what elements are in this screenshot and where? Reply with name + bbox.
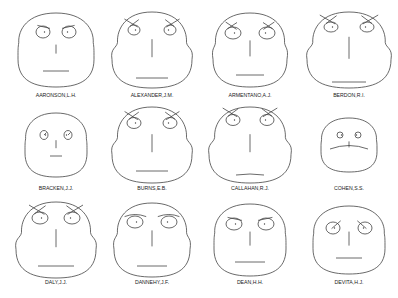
pupil-icon [365, 26, 366, 27]
pupil-icon [234, 119, 235, 120]
pupil-icon [332, 26, 333, 27]
pupil-icon [235, 223, 236, 224]
pupil-icon [135, 122, 136, 123]
pupil-icon [234, 32, 235, 33]
face: ARMENTANO,A.J. [212, 13, 287, 98]
face-label: DANNEHY,J.F. [135, 279, 169, 285]
pupil-icon [341, 134, 342, 135]
face-label: DEAN,H.H. [237, 279, 263, 285]
pupil-icon [167, 221, 168, 222]
face-label: BRACKEN,J.J. [39, 185, 74, 191]
face-label: ALEXANDER,J.M. [131, 92, 174, 98]
pupil-icon [265, 32, 266, 33]
pupil-icon [264, 223, 265, 224]
face: DALY,J.J. [16, 202, 97, 285]
eyebrow-icon [263, 23, 273, 29]
pupil-icon [66, 134, 67, 135]
face: DEAN,H.H. [214, 204, 286, 285]
eye-icon [358, 222, 372, 234]
pupil-icon [136, 221, 137, 222]
eyebrow-icon [263, 22, 274, 29]
face: BRACKEN,J.J. [25, 113, 87, 191]
pupil-icon [70, 217, 71, 218]
face-label: AARONSON,L.H. [36, 92, 77, 98]
eye-icon [127, 216, 143, 228]
pupil-icon [41, 217, 42, 218]
face-label: BERDON,R.I. [333, 92, 365, 98]
eyebrow-icon [227, 23, 237, 29]
pupil-icon [363, 227, 364, 228]
face: BURNS,E.B. [112, 107, 193, 191]
mouth-icon [236, 174, 264, 175]
face: BERDON,R.I. [307, 12, 392, 98]
eye-icon [161, 216, 177, 228]
face-label: DALY,J.J. [45, 279, 67, 285]
pupil-icon [135, 29, 136, 30]
eyebrow-icon [226, 22, 237, 29]
face: COHEN,S.S. [321, 118, 377, 191]
face: AARONSON,L.H. [18, 13, 94, 98]
pupil-icon [356, 134, 357, 135]
face-label: CALLAHAN,R.J. [231, 185, 269, 191]
face: CALLAHAN,R.J. [209, 107, 292, 191]
pupil-icon [44, 31, 45, 32]
face-label: COHEN,S.S. [334, 185, 364, 191]
eye-icon [326, 222, 340, 234]
pupil-icon [168, 29, 169, 30]
pupil-icon [334, 227, 335, 228]
face: DEVITA,H.J. [313, 206, 385, 285]
pupil-icon [265, 119, 266, 120]
face-label: ARMENTANO,A.J. [228, 92, 271, 98]
pupil-icon [67, 31, 68, 32]
chernoff-faces-chart: AARONSON,L.H.ALEXANDER,J.M.ARMENTANO,A.J… [0, 0, 398, 298]
face-label: DEVITA,H.J. [334, 279, 363, 285]
pupil-icon [168, 122, 169, 123]
face: ALEXANDER,J.M. [112, 12, 193, 98]
face-label: BURNS,E.B. [137, 185, 166, 191]
face: DANNEHY,J.F. [114, 203, 191, 285]
faces-canvas: AARONSON,L.H.ALEXANDER,J.M.ARMENTANO,A.J… [0, 0, 398, 298]
